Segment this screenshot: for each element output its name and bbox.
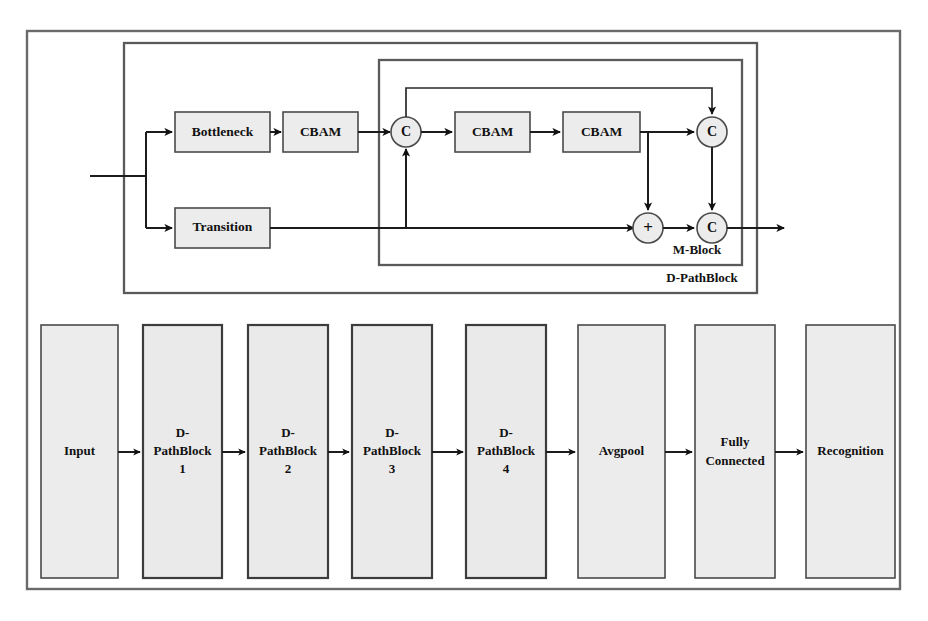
node-concat-out-label: C	[707, 220, 717, 235]
pipeline-stage-recognition: Recognition	[806, 325, 895, 578]
node-transition-label: Transition	[193, 219, 253, 234]
pipeline-stage-avgpool-line-0: Avgpool	[599, 443, 645, 458]
node-cbam-1-label: CBAM	[300, 124, 342, 139]
node-transition: Transition	[175, 208, 270, 248]
pipeline-stage-recognition-line-0: Recognition	[817, 443, 884, 458]
pipeline-stage-d-pathblock-3-line-1: PathBlock	[363, 443, 422, 458]
node-cbam-2-label: CBAM	[472, 124, 514, 139]
wire-skip-concat-in-to-concat-top	[406, 88, 712, 117]
node-bottleneck: Bottleneck	[175, 112, 270, 152]
node-cbam-3-label: CBAM	[581, 124, 623, 139]
pipeline-stage-fully-connected-line-1: Connected	[705, 453, 765, 468]
m-block-group-label: M-Block	[673, 242, 722, 257]
pipeline-stage-d-pathblock-1-line-0: D-	[176, 425, 190, 440]
pipeline-stage-d-pathblock-2-line-0: D-	[281, 425, 295, 440]
pipeline-stage-d-pathblock-4-line-2: 4	[503, 461, 510, 476]
node-cbam-2: CBAM	[455, 112, 530, 152]
node-cbam-3: CBAM	[563, 112, 640, 152]
network-architecture-diagram: Bottleneck CBAM Transition C	[0, 0, 928, 621]
node-bottleneck-label: Bottleneck	[192, 124, 254, 139]
pipeline-stage-d-pathblock-2: D- PathBlock 2	[248, 325, 328, 578]
pipeline-stage-d-pathblock-2-line-2: 2	[285, 461, 292, 476]
pipeline-stage-input: Input	[41, 325, 118, 578]
node-concat-top-label: C	[707, 124, 717, 139]
pipeline-stage-d-pathblock-3: D- PathBlock 3	[352, 325, 432, 578]
node-cbam-1: CBAM	[283, 112, 358, 152]
node-add-label: +	[643, 218, 653, 237]
pipeline-stage-d-pathblock-3-line-0: D-	[385, 425, 399, 440]
node-concat-in: C	[391, 117, 421, 147]
pipeline-stage-d-pathblock-2-line-1: PathBlock	[259, 443, 318, 458]
node-concat-top: C	[697, 117, 727, 147]
d-pathblock-frame	[124, 43, 757, 293]
pipeline-stage-input-line-0: Input	[64, 443, 96, 458]
pipeline-stage-d-pathblock-1-line-1: PathBlock	[154, 443, 213, 458]
pipeline-stage-d-pathblock-4-line-0: D-	[499, 425, 513, 440]
pipeline-stage-d-pathblock-3-line-2: 3	[389, 461, 396, 476]
d-pathblock-group-label: D-PathBlock	[666, 270, 738, 285]
pipeline-stage-d-pathblock-4-line-1: PathBlock	[477, 443, 536, 458]
pipeline-stage-d-pathblock-4: D- PathBlock 4	[466, 325, 546, 578]
pipeline-stage-avgpool: Avgpool	[578, 325, 665, 578]
pipeline-stage-fully-connected: Fully Connected	[695, 325, 775, 578]
node-concat-in-label: C	[401, 124, 411, 139]
node-add: +	[633, 213, 663, 243]
pipeline-stage-fully-connected-line-0: Fully	[721, 434, 750, 449]
node-concat-out: C	[697, 213, 727, 243]
pipeline-stage-d-pathblock-1: D- PathBlock 1	[143, 325, 222, 578]
pipeline-stage-d-pathblock-1-line-2: 1	[179, 461, 186, 476]
m-block-frame	[379, 60, 742, 265]
